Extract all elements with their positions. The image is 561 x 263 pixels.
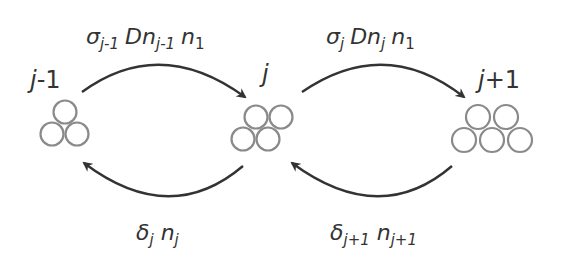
rate-label-backward-2: δj+1nj+1 xyxy=(330,220,417,249)
particle-circle xyxy=(257,128,280,151)
node-label-j-minus-1: j-1 xyxy=(27,66,61,94)
arrow-forward-j-minus-1-to-j xyxy=(82,65,245,97)
node-label-j: j xyxy=(259,60,269,88)
node-label-j-plus-1: j+1 xyxy=(475,66,520,94)
cluster-transition-diagram: j-1 j j+1 σj-1Dnj-1n1 σjDnjn1 δjnj δj+1n… xyxy=(0,0,561,263)
arrow-backward-j-to-j-minus-1 xyxy=(84,163,243,196)
particle-circle xyxy=(54,101,77,124)
particle-circle xyxy=(480,128,504,152)
particle-circle xyxy=(66,123,89,146)
particle-circle xyxy=(232,128,255,151)
particle-circle xyxy=(494,105,518,129)
rate-label-backward-1: δjnj xyxy=(136,220,180,249)
particle-circle xyxy=(508,128,532,152)
cluster-j xyxy=(232,106,293,151)
rate-label-forward-2: σjDnjn1 xyxy=(326,24,415,53)
cluster-j-minus-1 xyxy=(41,101,89,146)
particle-circle xyxy=(245,106,268,129)
cluster-j-plus-1 xyxy=(452,105,532,152)
particle-circle xyxy=(270,106,293,129)
particle-circle xyxy=(466,105,490,129)
particle-circle xyxy=(452,128,476,152)
arrow-forward-j-to-j-plus-1 xyxy=(302,65,464,97)
arrow-backward-j-plus-1-to-j xyxy=(292,163,452,196)
particle-circle xyxy=(41,123,64,146)
rate-label-forward-1: σj-1Dnj-1n1 xyxy=(86,24,205,53)
